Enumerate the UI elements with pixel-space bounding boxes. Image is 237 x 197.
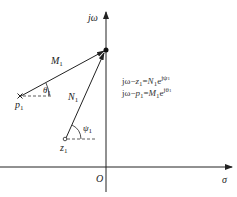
p-subscript: 1 xyxy=(20,104,24,112)
m1-subscript: 1 xyxy=(59,60,63,68)
z-subscript: 1 xyxy=(64,147,68,155)
zero-marker-icon xyxy=(63,137,67,141)
eq2-m: M xyxy=(149,88,157,98)
equation-pole-vector: jω−p1=M1ejθ1 xyxy=(122,87,171,100)
theta-subscript: 1 xyxy=(47,89,51,97)
psi-angle-arc xyxy=(72,125,81,139)
psi-subscript: 1 xyxy=(89,127,93,135)
vector-n1-label: N1 xyxy=(68,92,78,104)
origin-label: O xyxy=(96,174,103,184)
test-point-dot xyxy=(104,48,109,53)
psi1-label: ψ1 xyxy=(83,124,92,135)
eq1-exp-sub: 1 xyxy=(167,76,170,81)
zero-label: z1 xyxy=(60,143,67,155)
n1-subscript: 1 xyxy=(75,96,79,104)
eq2-exp-sub: 1 xyxy=(169,88,172,93)
s-plane-diagram xyxy=(0,0,237,197)
vector-m1-label: M1 xyxy=(51,56,63,68)
jw-axis-label-text: jω xyxy=(88,12,98,23)
jw-axis-label: jω xyxy=(88,13,98,23)
n1-symbol: N xyxy=(68,91,75,102)
sigma-axis-label: σ xyxy=(222,175,227,185)
theta1-label: θ1 xyxy=(43,86,51,97)
pole-label: p1 xyxy=(15,100,24,112)
